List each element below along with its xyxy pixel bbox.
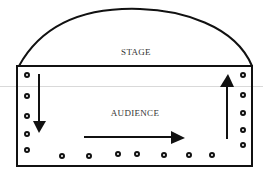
seat-icon: [210, 153, 214, 157]
seat-icon: [241, 73, 245, 77]
seat-icon: [135, 152, 139, 156]
audience-label: AUDIENCE: [111, 108, 159, 118]
seat-icon: [25, 94, 29, 98]
arrow-right-icon: [84, 131, 185, 144]
seat-icon: [25, 114, 29, 118]
seat-icon: [241, 128, 245, 132]
seat-icon: [241, 93, 245, 97]
seat-icon: [241, 111, 245, 115]
stage-label: STAGE: [121, 47, 151, 57]
seat-icon: [60, 154, 64, 158]
stage-diagram: [0, 0, 263, 173]
seat-icon: [162, 153, 166, 157]
left-seat-column: [25, 73, 29, 152]
stage-arc: [19, 9, 252, 66]
seat-icon: [25, 148, 29, 152]
arrow-down-icon: [33, 74, 46, 133]
bottom-seat-row: [60, 152, 214, 158]
seat-icon: [116, 152, 120, 156]
arrow-up-icon: [220, 74, 234, 139]
right-seat-column: [241, 73, 245, 147]
seat-icon: [187, 153, 191, 157]
seat-icon: [87, 154, 91, 158]
seat-icon: [241, 143, 245, 147]
seat-icon: [25, 132, 29, 136]
seat-icon: [25, 73, 29, 77]
